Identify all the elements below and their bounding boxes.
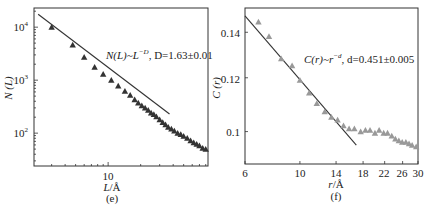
y-tick-labels-e: 104 103 102 (14, 20, 29, 139)
x-tick-label-10: 10 (295, 167, 307, 179)
data-point (81, 54, 87, 60)
data-point (367, 127, 373, 133)
data-point (351, 125, 357, 131)
data-point (384, 130, 390, 136)
data-point (255, 19, 261, 25)
data-point (266, 33, 272, 39)
x-axis-ticks-e (52, 162, 206, 166)
x-tick-label-26: 26 (397, 167, 409, 179)
panel-label-e: (e) (106, 192, 119, 205)
data-point (357, 128, 363, 134)
x-tick-label-6: 6 (242, 167, 248, 179)
data-point (115, 83, 121, 89)
annotation-e: N(L)~L−D, D=1.63±0.01 (105, 48, 213, 62)
y-tick-label-1e4: 104 (14, 20, 29, 33)
data-point (297, 77, 303, 83)
annotation-f: C(r)~r−d, d=0.451±0.005 (304, 52, 415, 66)
fit-line-e (38, 14, 169, 114)
data-point (346, 125, 352, 131)
panel-label-f: (f) (331, 190, 342, 203)
plot-frame-f (245, 8, 418, 164)
data-point (122, 88, 128, 94)
data-point (334, 117, 340, 123)
x-tick-label-22: 22 (379, 167, 390, 179)
data-points-e (48, 24, 208, 152)
data-point (100, 71, 106, 77)
data-points-f (255, 19, 419, 150)
data-point (108, 77, 114, 83)
y-axis-label-f: C (r) (210, 77, 223, 99)
data-point (91, 64, 97, 70)
data-point (127, 92, 133, 98)
x-axis-label-f: r/Å (328, 178, 343, 190)
panel-e: 10 104 103 102 N (L) L/Å (e) N(L)~L−D, D… (2, 8, 213, 205)
y-tick-label-0.12: 0.12 (221, 73, 240, 85)
y-tick-label-1e2: 102 (14, 126, 29, 139)
x-tick-label-18: 18 (358, 167, 370, 179)
y-tick-label-0.1: 0.1 (226, 126, 240, 138)
data-point (278, 56, 284, 62)
y-tick-labels-f: 0.14 0.12 0.1 (221, 27, 241, 138)
data-point (328, 114, 334, 120)
chart-figure: 10 104 103 102 N (L) L/Å (e) N(L)~L−D, D… (0, 0, 430, 205)
y-tick-label-1e3: 103 (14, 73, 29, 86)
plot-frame-e (34, 8, 208, 166)
y-axis-label-e: N (L) (2, 76, 15, 101)
data-point (340, 123, 346, 129)
y-axis-ticks-e (34, 11, 38, 161)
panel-f: 6 10 14 18 22 26 30 0.14 0.12 0.1 C (r) … (210, 8, 424, 203)
y-tick-label-0.14: 0.14 (221, 27, 241, 39)
data-point (376, 127, 382, 133)
data-point (289, 63, 295, 69)
x-tick-label-30: 30 (413, 167, 425, 179)
